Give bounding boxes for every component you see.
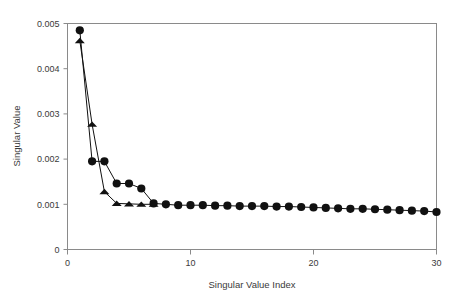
y-tick-label: 0: [54, 245, 59, 255]
data-point-circle: [334, 204, 342, 212]
data-point-circle: [297, 203, 305, 211]
x-tick-label: 30: [431, 258, 441, 268]
data-point-circle: [396, 206, 404, 214]
data-point-circle: [260, 202, 268, 210]
data-point-circle: [346, 205, 354, 213]
data-point-circle: [322, 204, 330, 212]
data-point-circle: [432, 208, 440, 216]
data-point-circle: [285, 202, 293, 210]
data-point-circle: [359, 205, 367, 213]
y-tick-label: 0.005: [37, 19, 60, 29]
data-point-circle: [162, 200, 170, 208]
data-point-circle: [408, 207, 416, 215]
y-tick-label: 0.002: [37, 154, 60, 164]
data-point-circle: [211, 202, 219, 210]
data-point-circle: [174, 201, 182, 209]
data-point-circle: [100, 157, 108, 165]
data-point-circle: [113, 179, 121, 187]
data-point-circle: [137, 184, 145, 192]
data-point-circle: [88, 157, 96, 165]
data-point-circle: [248, 202, 256, 210]
data-point-circle: [371, 205, 379, 213]
data-point-circle: [76, 26, 84, 34]
x-tick-label: 20: [308, 258, 318, 268]
data-point-circle: [199, 201, 207, 209]
singular-value-chart: 00.0010.0020.0030.0040.005 0102030 Singu…: [0, 0, 450, 297]
y-tick-label: 0.001: [37, 200, 60, 210]
data-point-circle: [125, 179, 133, 187]
y-axis-title: Singular Value: [11, 105, 22, 166]
figure-container: 00.0010.0020.0030.0040.005 0102030 Singu…: [0, 0, 450, 297]
data-point-circle: [186, 201, 194, 209]
x-axis-title: Singular Value Index: [209, 279, 296, 290]
y-tick-label: 0.004: [37, 64, 60, 74]
data-point-circle: [273, 202, 281, 210]
x-tick-label: 0: [65, 258, 70, 268]
y-tick-label: 0.003: [37, 109, 60, 119]
data-point-circle: [236, 202, 244, 210]
data-point-circle: [383, 206, 391, 214]
data-point-circle: [420, 207, 428, 215]
data-point-circle: [309, 203, 317, 211]
x-tick-label: 10: [185, 258, 195, 268]
data-point-circle: [223, 202, 231, 210]
